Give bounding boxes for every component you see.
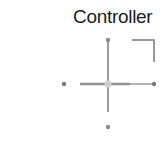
corner-bracket-icon (132, 40, 154, 62)
controller-dpad-icon (0, 0, 165, 148)
left-direction-dot[interactable] (62, 82, 66, 86)
down-direction-dot[interactable] (106, 125, 110, 129)
up-direction-dot[interactable] (106, 38, 110, 42)
center-knob[interactable] (105, 81, 112, 88)
right-direction-dot[interactable] (152, 82, 156, 86)
